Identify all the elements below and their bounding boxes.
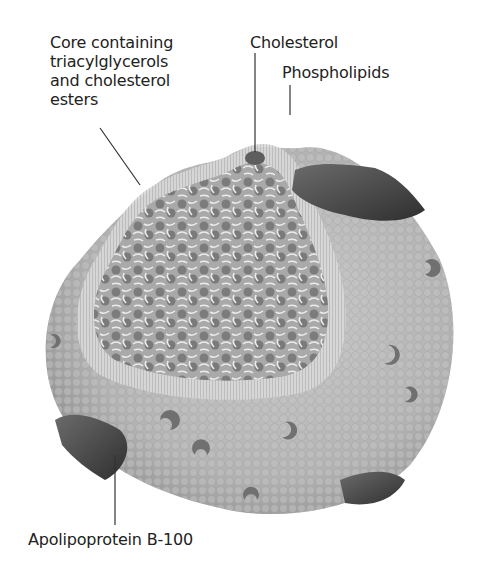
- cholesterol-molecule: [245, 151, 265, 165]
- ldl-diagram: Core containing triacylglycerols and cho…: [0, 0, 491, 573]
- label-phospholipids: Phospholipids: [282, 63, 389, 82]
- label-cholesterol: Cholesterol: [250, 33, 338, 52]
- core-leader-line: [100, 128, 140, 185]
- label-core: Core containing triacylglycerols and cho…: [50, 33, 173, 109]
- label-apolipoprotein-b100: Apolipoprotein B-100: [28, 530, 193, 549]
